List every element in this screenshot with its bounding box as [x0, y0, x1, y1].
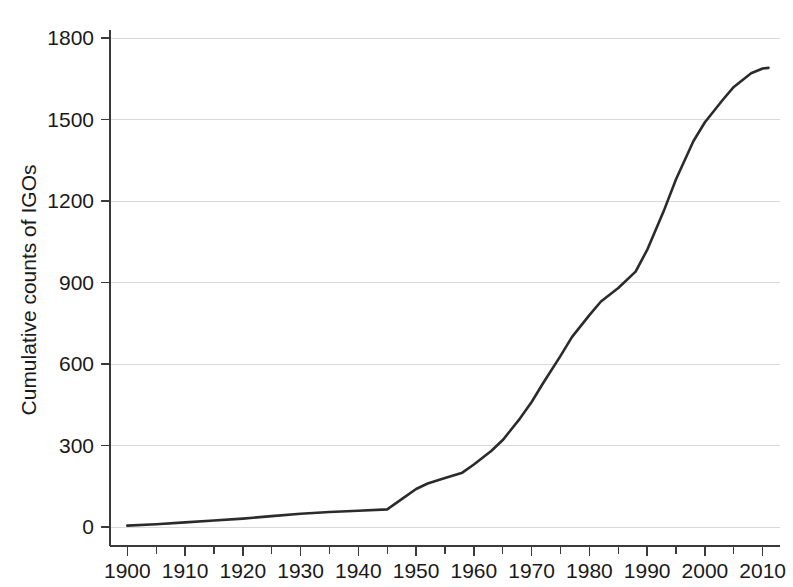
x-tick-label: 1900 [104, 559, 151, 582]
y-tick-label: 1200 [47, 189, 94, 212]
line-chart: 0300600900120015001800 19001910192019301… [0, 0, 793, 587]
gridlines-group [110, 38, 780, 527]
x-axis [110, 546, 780, 556]
y-axis [101, 30, 110, 546]
y-tick-label: 900 [59, 271, 94, 294]
y-tick-label: 300 [59, 434, 94, 457]
y-axis-title: Cumulative counts of IGOs [17, 165, 40, 416]
x-tick-label: 1970 [508, 559, 555, 582]
chart-container: 0300600900120015001800 19001910192019301… [0, 0, 793, 587]
data-series-group [127, 68, 768, 526]
x-tick-label: 1950 [393, 559, 440, 582]
x-tick-label: 2000 [682, 559, 729, 582]
y-tick-label: 0 [82, 515, 94, 538]
y-tick-label: 1500 [47, 108, 94, 131]
data-line-cumulative-igos [127, 68, 768, 526]
x-tick-label: 1980 [566, 559, 613, 582]
y-tick-label: 1800 [47, 26, 94, 49]
x-tick-label: 1910 [162, 559, 209, 582]
x-tick-label: 1930 [277, 559, 324, 582]
x-tick-labels-group: 1900191019201930194019501960197019801990… [104, 559, 786, 582]
x-tick-label: 2010 [739, 559, 786, 582]
x-tick-label: 1940 [335, 559, 382, 582]
y-tick-label: 600 [59, 352, 94, 375]
x-tick-label: 1990 [624, 559, 671, 582]
x-tick-label: 1960 [451, 559, 498, 582]
y-tick-labels-group: 0300600900120015001800 [47, 26, 94, 538]
x-tick-label: 1920 [219, 559, 266, 582]
